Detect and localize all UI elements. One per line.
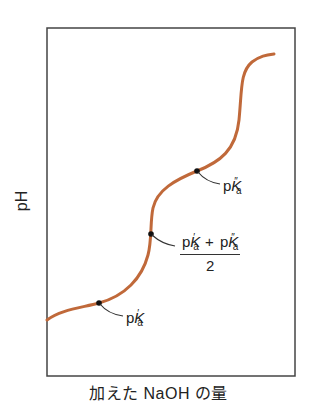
chart-canvas [0, 0, 317, 414]
pka1-leader [100, 304, 123, 316]
y-axis-label: pH [14, 191, 30, 211]
pka1-label: pK′a [126, 309, 143, 328]
midpoint-leader [152, 235, 175, 246]
pka2-leader [198, 172, 220, 184]
plot-frame [47, 28, 295, 376]
x-axis-label: 加えた NaOH の量 [0, 386, 317, 402]
midpoint-denominator: 2 [180, 255, 240, 273]
midpoint-numerator: pK′a + pK″a [180, 233, 240, 255]
pka2-label: pK″a [223, 177, 241, 196]
midpoint-label: pK′a + pK″a 2 [180, 233, 240, 273]
